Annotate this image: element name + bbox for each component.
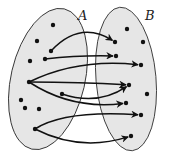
set-a-element-a1 xyxy=(51,23,55,27)
set-mapping-diagram: A B xyxy=(0,0,171,160)
set-b-element-b9 xyxy=(139,113,143,117)
set-a-element-a6 xyxy=(27,80,31,84)
set-a-element-a5 xyxy=(43,57,47,61)
set-b-element-b10 xyxy=(129,134,133,138)
set-b-element-b7 xyxy=(145,92,149,96)
set-b-element-b3 xyxy=(141,40,145,44)
set-a-element-a3 xyxy=(28,59,32,63)
set-b-element-b6 xyxy=(127,83,131,87)
set-a-element-a4 xyxy=(49,49,53,53)
set-b-element-b1 xyxy=(125,27,129,31)
set-a-element-a8 xyxy=(23,106,27,110)
set-a-element-a10 xyxy=(60,92,64,96)
set-a-label: A xyxy=(77,8,87,23)
set-a-ellipse xyxy=(0,1,100,158)
set-a-element-a11 xyxy=(33,127,37,131)
set-a-element-a7 xyxy=(19,98,23,102)
set-b-element-b4 xyxy=(114,54,118,58)
set-b-label: B xyxy=(144,8,155,23)
set-b-element-b5 xyxy=(139,63,143,67)
set-b-element-b8 xyxy=(124,101,128,105)
set-a-element-a2 xyxy=(35,39,39,43)
set-a-element-a9 xyxy=(37,107,41,111)
set-b-element-b2 xyxy=(113,40,117,44)
set-b-ellipse xyxy=(90,5,162,154)
